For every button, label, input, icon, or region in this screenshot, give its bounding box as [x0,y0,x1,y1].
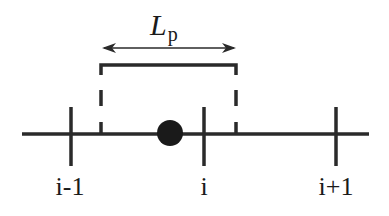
length-label: Lp [150,10,178,44]
node-label-i-plus-1: i+1 [319,174,354,200]
node-label-i-minus-1: i-1 [56,174,85,200]
grid-diagram: Lp i-1 i i+1 [0,0,389,216]
particle-dot [157,120,183,146]
support-bracket [101,65,236,75]
node-label-i: i [200,174,207,200]
